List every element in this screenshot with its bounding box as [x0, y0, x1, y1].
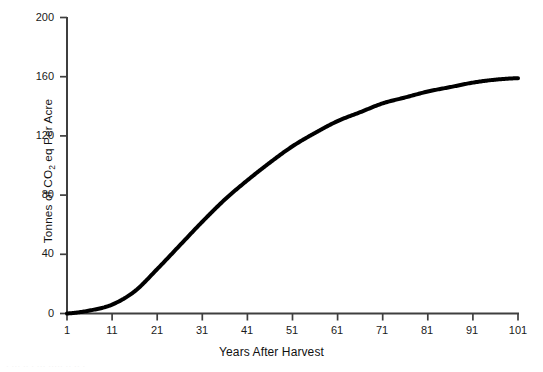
y-tick-label-160: 160 — [20, 70, 54, 82]
x-tick-label-71: 71 — [364, 324, 400, 336]
y-axis-title-main: Tonnes of CO — [41, 170, 55, 243]
x-tick-label-81: 81 — [409, 324, 445, 336]
plot-background — [0, 0, 543, 372]
y-tick-label-200: 200 — [20, 11, 54, 23]
chart-figure: Tonnes of CO2 eq Per Acre Years After Ha… — [0, 0, 543, 372]
y-tick-label-0: 0 — [20, 307, 54, 319]
x-tick-label-101: 101 — [500, 324, 536, 336]
chart-canvas — [0, 0, 543, 372]
x-axis-title: Years After Harvest — [0, 345, 543, 359]
figure-caption-clipped: · ··· ·· · ··· ····· ·· ·· · — [6, 362, 85, 371]
x-tick-label-1: 1 — [49, 324, 85, 336]
x-tick-label-41: 41 — [229, 324, 265, 336]
x-tick-label-11: 11 — [94, 324, 130, 336]
y-axis-title-subscript: 2 — [47, 165, 57, 170]
y-tick-label-40: 40 — [20, 247, 54, 259]
y-tick-label-80: 80 — [20, 188, 54, 200]
x-tick-label-91: 91 — [454, 324, 490, 336]
x-tick-label-21: 21 — [139, 324, 175, 336]
x-tick-label-61: 61 — [319, 324, 355, 336]
x-tick-label-51: 51 — [274, 324, 310, 336]
x-tick-label-31: 31 — [184, 324, 220, 336]
y-tick-label-120: 120 — [20, 129, 54, 141]
